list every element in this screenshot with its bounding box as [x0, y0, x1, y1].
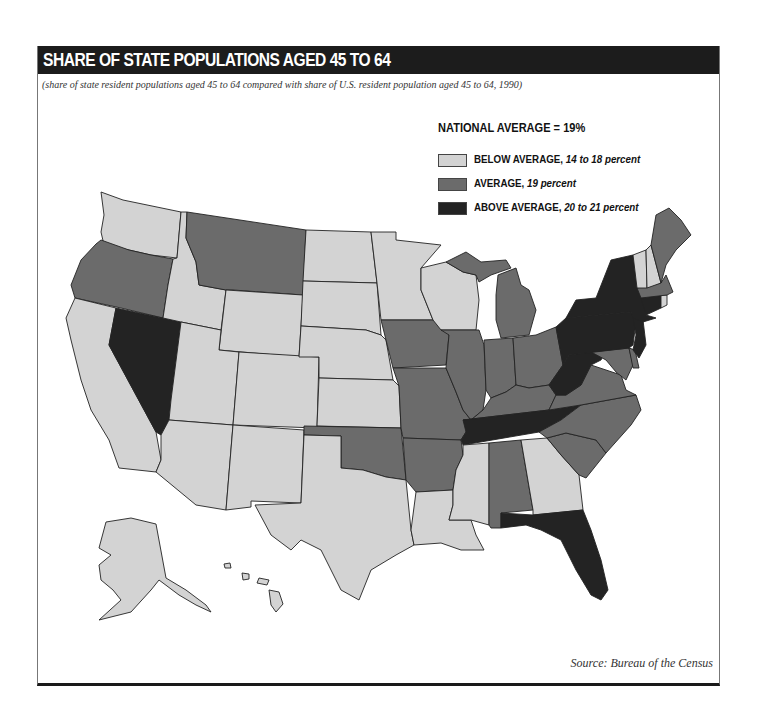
chart-frame: SHARE OF STATE POPULATIONS AGED 45 TO 64… — [37, 46, 720, 686]
source-note: Source: Bureau of the Census — [571, 656, 713, 671]
legend-title: NATIONAL AVERAGE = 19% — [438, 120, 585, 135]
swatch-average — [438, 178, 467, 191]
swatch-below — [438, 154, 467, 167]
state-KS — [317, 378, 401, 428]
state-AK — [99, 518, 211, 620]
map-legend: NATIONAL AVERAGE = 19% BELOW AVERAGE, 14… — [438, 120, 611, 135]
state-NM — [226, 425, 304, 510]
legend-label-above: ABOVE AVERAGE, — [474, 201, 564, 213]
state-HI — [224, 563, 283, 612]
legend-range-above: 20 to 21 percent — [564, 201, 638, 213]
state-RI — [661, 295, 667, 308]
legend-range-average: 19 percent — [527, 177, 576, 189]
state-AZ — [156, 420, 233, 510]
legend-label-average: AVERAGE, — [474, 177, 527, 189]
state-ND — [303, 230, 377, 283]
state-CO — [233, 352, 319, 428]
legend-label-below: BELOW AVERAGE, — [474, 153, 566, 165]
legend-range-below: 14 to 18 percent — [566, 153, 640, 165]
state-WY — [219, 290, 303, 357]
state-MT — [186, 212, 306, 295]
us-map — [38, 46, 719, 683]
swatch-above — [438, 202, 467, 215]
state-NJ — [633, 318, 646, 358]
state-MI — [496, 268, 536, 338]
state-FL — [501, 510, 608, 600]
